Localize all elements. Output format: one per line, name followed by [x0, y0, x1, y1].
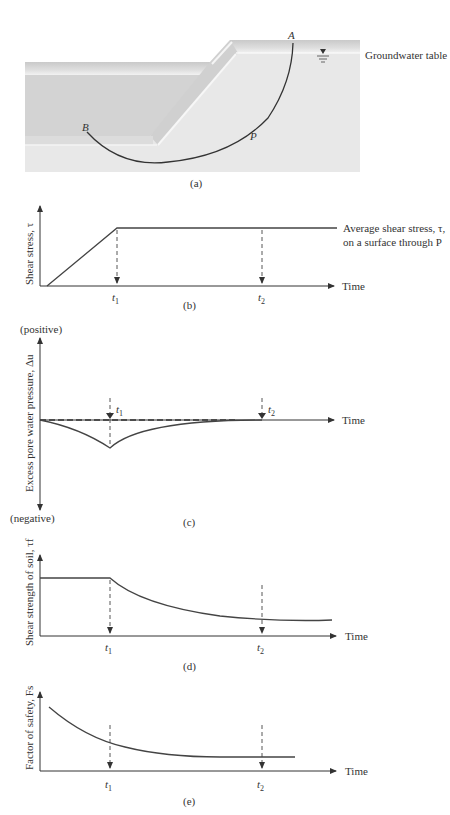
- slope-cross-section: [25, 40, 360, 172]
- chart-b: [40, 206, 337, 286]
- chart-c: [40, 338, 334, 510]
- chart-d-t1: t1: [105, 641, 112, 656]
- shear-strength-curve: [40, 578, 332, 621]
- chart-b-ylabel: Shear stress, τ: [23, 222, 35, 285]
- chart-d: [40, 555, 336, 636]
- chart-d-xlabel: Time: [345, 630, 368, 642]
- chart-b-t1: t1: [112, 291, 119, 306]
- caption-a: (a): [190, 177, 203, 190]
- chart-e-ylabel: Factor of safety, Fs: [23, 686, 35, 770]
- factor-of-safety-curve: [49, 707, 295, 757]
- chart-b-annotation-1: Average shear stress, τ,: [343, 222, 446, 234]
- chart-d-ylabel: Shear strength of soil, τf: [23, 538, 35, 646]
- caption-c: (c): [183, 516, 196, 529]
- chart-c-t1: t1: [116, 403, 123, 418]
- point-P-label: P: [249, 130, 257, 142]
- upper-ground-surface: [230, 40, 360, 53]
- chart-c-top-label: (positive): [20, 323, 62, 336]
- chart-b-annotation-2: on a surface through P: [343, 236, 442, 248]
- pore-pressure-curve: [40, 420, 262, 448]
- chart-d-t2: t2: [257, 641, 264, 656]
- chart-c-t2: t2: [268, 403, 275, 418]
- chart-e: [40, 692, 336, 771]
- chart-e-t2: t2: [257, 778, 264, 793]
- caption-e: (e): [183, 795, 196, 808]
- caption-b: (b): [183, 299, 196, 312]
- groundwater-table-label: Groundwater table: [365, 49, 447, 61]
- caption-d: (d): [183, 660, 196, 673]
- chart-c-bottom-label: (negative): [10, 512, 55, 525]
- point-A-label: A: [287, 29, 295, 41]
- chart-c-ylabel: Excess pore water pressure, Δu: [23, 354, 35, 492]
- shear-stress-line: [47, 228, 337, 286]
- point-B-label: B: [82, 121, 89, 133]
- chart-c-xlabel: Time: [342, 414, 365, 426]
- chart-b-xlabel: Time: [342, 280, 365, 292]
- chart-e-t1: t1: [105, 778, 112, 793]
- chart-b-t2: t2: [258, 291, 265, 306]
- lower-ground-surface: [25, 62, 210, 75]
- chart-e-xlabel: Time: [345, 765, 368, 777]
